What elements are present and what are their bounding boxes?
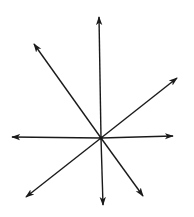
arrow-left	[12, 137, 101, 138]
arrows-group	[12, 17, 177, 205]
arrow-diagram	[0, 0, 194, 217]
arrow-up	[99, 17, 101, 138]
arrow-down	[101, 138, 103, 205]
arrow-lower-left	[26, 138, 101, 197]
arrow-upper-right	[101, 78, 177, 138]
arrow-lower-right	[101, 138, 143, 196]
arrow-upper-left	[34, 44, 101, 138]
center-point	[99, 136, 103, 140]
arrow-right	[101, 136, 173, 138]
